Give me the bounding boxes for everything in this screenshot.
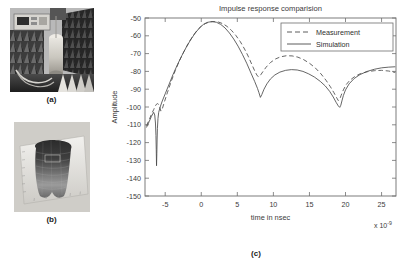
x-tick-label: 25 <box>378 200 386 209</box>
legend-label-measurement: Measurement <box>316 28 360 37</box>
instrument-display <box>17 17 29 25</box>
panel-b-caption: (b) <box>0 215 103 224</box>
x-axis-label: time in nsec <box>251 213 291 222</box>
anechoic-chamber-illustration <box>10 8 94 92</box>
y-tick-label: -130 <box>127 156 141 165</box>
panel-c-chart: Impulse response comparision-150-140-130… <box>103 0 409 269</box>
chart-title: Impulse response comparision <box>219 4 322 13</box>
panel-a-caption: (a) <box>0 95 103 104</box>
torso-model-illustration <box>14 122 90 212</box>
y-tick-label: -120 <box>127 138 141 147</box>
left-panel-column: (a) <box>0 0 103 269</box>
y-tick-label: -60 <box>131 31 141 40</box>
y-axis-label: Amplitude <box>110 91 119 124</box>
absorber-cones-left <box>10 30 44 78</box>
y-tick-label: -70 <box>131 49 141 58</box>
y-tick-label: -150 <box>127 192 141 201</box>
x-axis-exponent: x 10-9 <box>374 220 392 229</box>
torso-phantom-body <box>35 140 71 198</box>
x-tick-label: 15 <box>305 200 313 209</box>
figure-root: (a) <box>0 0 409 269</box>
y-tick-label: -110 <box>127 120 141 129</box>
y-tick-label: -100 <box>127 103 141 112</box>
y-tick-label: -50 <box>131 14 141 23</box>
y-tick-label: -90 <box>131 85 141 94</box>
x-tick-label: 10 <box>269 200 277 209</box>
impulse-response-chart: Impulse response comparision-150-140-130… <box>103 0 409 248</box>
x-tick-label: 5 <box>235 200 239 209</box>
legend-label-simulation: Simulation <box>316 40 350 49</box>
x-tick-label: 20 <box>342 200 350 209</box>
y-tick-label: -80 <box>131 67 141 76</box>
x-tick-label: 0 <box>199 200 203 209</box>
panel-c-caption: (c) <box>103 249 409 258</box>
cylindrical-phantom <box>49 38 63 74</box>
panel-a-photo-anechoic-chamber <box>10 8 94 92</box>
x-tick-label: -5 <box>162 200 168 209</box>
panel-b-photo-torso-model <box>14 122 90 212</box>
y-tick-label: -140 <box>127 174 141 183</box>
absorber-cones-right <box>62 8 94 78</box>
